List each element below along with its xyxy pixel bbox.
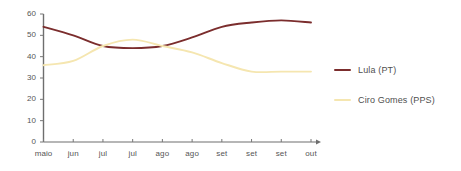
- y-axis-tick-label: 10: [14, 116, 36, 125]
- y-axis-tick-label: 30: [14, 73, 36, 82]
- legend-color-swatch: [334, 99, 351, 101]
- legend-item-label: Ciro Gomes (PPS): [358, 95, 435, 105]
- legend-item[interactable]: Ciro Gomes (PPS): [334, 85, 459, 115]
- y-axis-tick-label: 20: [14, 94, 36, 103]
- series-line-2: [44, 40, 312, 73]
- series-line-1: [44, 20, 312, 48]
- y-axis-tick-label: 0: [14, 137, 36, 146]
- y-axis-tick-label: 50: [14, 30, 36, 39]
- axis-group: [40, 14, 321, 145]
- legend-item-label: Lula (PT): [358, 65, 396, 75]
- chart-legend: Lula (PT)Ciro Gomes (PPS): [334, 55, 459, 115]
- y-axis-tick-label: 40: [14, 52, 36, 61]
- x-axis-tick-label: out: [291, 149, 331, 158]
- legend-item[interactable]: Lula (PT): [334, 55, 459, 85]
- legend-color-swatch: [334, 69, 351, 71]
- y-axis-tick-label: 60: [14, 9, 36, 18]
- chart-figure: 0102030405060 maiojunjuljulagoagosetsets…: [0, 0, 461, 171]
- series-group: [44, 20, 312, 72]
- x-axis-arrow: [316, 139, 321, 144]
